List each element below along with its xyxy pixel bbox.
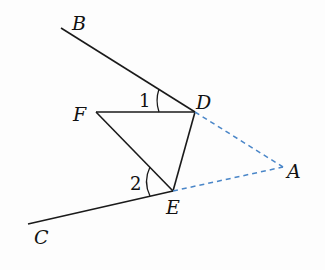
figure-svg: B D F E A C 1 2 — [0, 0, 325, 270]
label-d: D — [195, 91, 211, 113]
segment-ec — [28, 191, 173, 224]
segment-de — [173, 112, 195, 191]
label-e: E — [165, 196, 180, 218]
angle-2-arc — [147, 167, 150, 196]
label-f: F — [72, 103, 87, 125]
segment-da-dashed — [195, 112, 283, 167]
angle-1-label: 1 — [139, 90, 150, 111]
segment-bd — [61, 28, 195, 112]
angle-1-arc — [157, 89, 159, 112]
label-b: B — [71, 12, 86, 34]
angle-2-label: 2 — [130, 173, 141, 194]
geometry-figure: B D F E A C 1 2 — [0, 0, 325, 270]
label-c: C — [34, 226, 49, 248]
segment-ea-dashed — [173, 167, 283, 191]
label-a: A — [285, 160, 301, 182]
